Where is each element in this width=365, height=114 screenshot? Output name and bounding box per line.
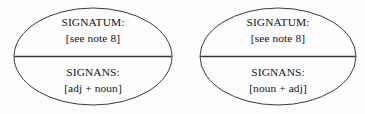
right-signatum-value: [see note 8] xyxy=(251,32,305,44)
right-signans-label: SIGNANS: xyxy=(251,66,304,78)
left-signatum-value: [see note 8] xyxy=(66,32,120,44)
left-signatum-label: SIGNATUM: xyxy=(62,16,125,28)
left-sign-ellipse-group: SIGNATUM: [see note 8] SIGNANS: [adj + n… xyxy=(14,8,172,105)
sign-diagram-figure: SIGNATUM: [see note 8] SIGNANS: [adj + n… xyxy=(0,0,365,114)
left-signans-label: SIGNANS: xyxy=(66,66,119,78)
right-signatum-label: SIGNATUM: xyxy=(247,16,310,28)
left-signans-value: [adj + noun] xyxy=(64,82,122,94)
right-sign-ellipse-group: SIGNATUM: [see note 8] SIGNANS: [noun + … xyxy=(200,8,356,105)
sign-diagram-canvas: SIGNATUM: [see note 8] SIGNANS: [adj + n… xyxy=(0,0,365,114)
right-signans-value: [noun + adj] xyxy=(249,82,307,94)
